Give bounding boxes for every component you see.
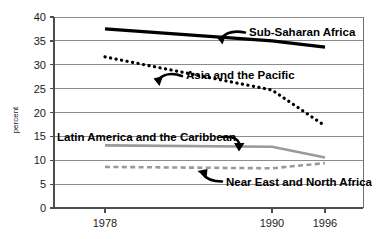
x-tick-marks bbox=[105, 208, 325, 213]
chart-canvas: 40 35 30 25 20 15 10 5 0 percent 1978 19… bbox=[0, 0, 380, 239]
x-tick-label-1978: 1978 bbox=[93, 217, 117, 229]
y-tick-label-40: 40 bbox=[34, 11, 46, 23]
y-tick-label-0: 0 bbox=[40, 202, 46, 214]
y-axis-title: percent bbox=[11, 106, 20, 133]
y-tick-label-30: 30 bbox=[34, 59, 46, 71]
y-tick-label-25: 25 bbox=[34, 83, 46, 95]
x-tick-label-1990: 1990 bbox=[260, 217, 284, 229]
series-label-near-east-and-north-africa: Near East and North Africa bbox=[226, 176, 373, 188]
y-tick-label-35: 35 bbox=[34, 35, 46, 47]
y-tick-label-20: 20 bbox=[34, 107, 46, 119]
series-label-sub-saharan-africa: Sub-Saharan Africa bbox=[249, 26, 356, 38]
series-label-latin-america-and-the-caribbean: Latin America and the Caribbean bbox=[57, 131, 236, 143]
y-tick-label-10: 10 bbox=[34, 154, 46, 166]
series-label-asia-and-the-pacific: Asia and the Pacific bbox=[186, 69, 295, 81]
y-tick-label-5: 5 bbox=[40, 178, 46, 190]
line-chart: 40 35 30 25 20 15 10 5 0 percent 1978 19… bbox=[0, 0, 380, 239]
y-tick-label-15: 15 bbox=[34, 130, 46, 142]
x-tick-label-1996: 1996 bbox=[313, 217, 337, 229]
